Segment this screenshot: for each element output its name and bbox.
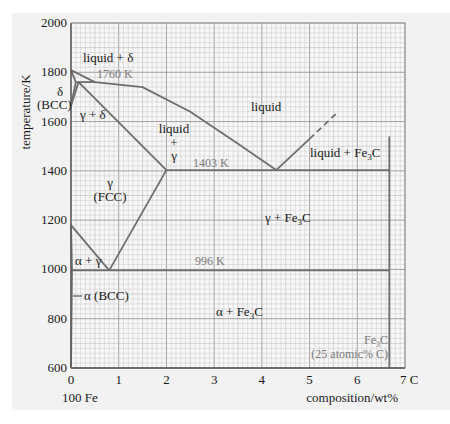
temp-1760k: 1760 K	[97, 67, 133, 81]
y-tick-label: 2000	[41, 15, 67, 30]
x-tick-label: 2	[163, 372, 170, 387]
x-tick-label: 1	[115, 372, 122, 387]
y-tick-label: 1800	[41, 64, 67, 79]
y-tick-label: 1000	[41, 261, 67, 276]
region-gamma-delta: γ + δ	[79, 107, 106, 122]
x-tick-label: 0	[68, 372, 75, 387]
region-alpha-bcc: α (BCC)	[84, 288, 129, 303]
temp-996k: 996 K	[195, 254, 225, 268]
region-alpha-gamma: α + γ	[75, 253, 102, 268]
region-alpha-fe3c: α + Fe3C	[216, 304, 263, 321]
region-liquid: liquid	[251, 99, 282, 114]
x-axis-label: composition/wt%	[306, 390, 398, 405]
y-tick-label: 1600	[41, 114, 67, 129]
temp-1403k: 1403 K	[193, 156, 229, 170]
region-gamma-fcc: (FCC)	[93, 189, 126, 204]
y-tick-label: 1400	[41, 163, 67, 178]
y-tick-label: 800	[48, 311, 68, 326]
x-tick-label: 4	[259, 372, 266, 387]
x-tick-label: 5	[306, 372, 313, 387]
region-gamma-fe3c: γ + Fe3C	[264, 210, 311, 227]
x-tick-label: 6	[354, 372, 361, 387]
region-liquid-delta: liquid + δ	[83, 50, 133, 65]
region-liquid-gamma-3: γ	[170, 148, 177, 163]
y-axis-label: temperature/K	[18, 74, 33, 150]
y-tick-label: 600	[48, 360, 68, 375]
phase-diagram-chart: 6008001000120014001600180020000123456 te…	[0, 0, 450, 424]
x-origin-label: 100 Fe	[62, 390, 98, 405]
x-tick-label: 3	[211, 372, 218, 387]
region-gamma: γ	[106, 175, 113, 190]
fe3c-atomic-label: (25 atomic% C)	[311, 347, 388, 361]
x-end-label: 7 C	[400, 372, 418, 387]
region-liquid-gamma-1: liquid	[159, 121, 190, 136]
y-tick-label: 1200	[41, 212, 67, 227]
region-delta-bcc: (BCC)	[37, 97, 72, 112]
